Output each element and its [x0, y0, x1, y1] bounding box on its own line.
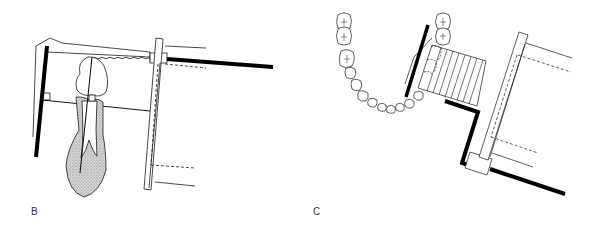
indicator-rod-c [479, 32, 528, 160]
film-bar [36, 46, 47, 157]
ring-arm-bar-c [490, 169, 565, 194]
diagram-canvas [0, 0, 602, 237]
dental-arch [337, 13, 451, 113]
dental-diagram: B C [0, 0, 602, 237]
panel-b [33, 38, 273, 197]
bite-serration [92, 57, 152, 59]
film-bar-c [406, 25, 428, 97]
panel-label-c: C [313, 206, 320, 217]
panel-c [337, 13, 573, 194]
panel-label-b: B [31, 206, 38, 217]
bite-block-stripes [427, 48, 483, 104]
